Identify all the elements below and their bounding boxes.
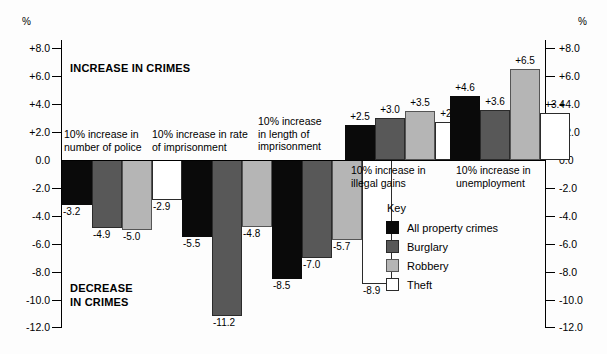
y-axis-tick-label-left: 0.0 [12, 154, 50, 166]
y-axis-tick-left [52, 327, 61, 328]
legend-item-theft: Theft [386, 276, 498, 293]
y-axis-tick-label-right: -4.0 [559, 210, 577, 222]
y-axis-tick-label-left: -8.0 [12, 266, 50, 278]
y-axis-tick-left [52, 272, 61, 273]
bar-all-property-crimes [62, 160, 92, 205]
y-axis-tick-label-right: -12.0 [559, 321, 583, 333]
bar-theft [540, 113, 570, 160]
y-axis-tick-right [546, 216, 555, 217]
bar-all-property-crimes [182, 160, 212, 237]
bar-value-label: +3.6 [480, 96, 510, 107]
bar-value-label: -3.2 [63, 206, 80, 217]
bar-value-label: -2.9 [153, 201, 170, 212]
bar-robbery [510, 69, 540, 160]
bar-value-label: -4.8 [243, 228, 260, 239]
bar-robbery [242, 160, 272, 227]
y-axis-tick-label-left: +6.0 [12, 70, 50, 82]
y-axis-unit-left: % [22, 16, 31, 27]
y-axis-tick-label-left: +4.0 [12, 98, 50, 110]
legend-item-label: Robbery [407, 260, 449, 272]
bar-value-label: +6.5 [510, 55, 540, 66]
bar-robbery [405, 111, 435, 160]
y-axis-tick-label-left: -10.0 [12, 294, 50, 306]
y-axis-tick-left [52, 244, 61, 245]
bar-theft [152, 160, 182, 200]
bar-value-label: -4.9 [93, 229, 110, 240]
chart-canvas: % % +8.0+8.0+6.0+6.0+4.0+4.0+2.0+2.00.00… [0, 0, 607, 354]
bar-burglary [375, 118, 405, 160]
y-axis-tick-left [52, 132, 61, 133]
y-axis-tick-right [546, 188, 555, 189]
y-axis-tick-right [546, 76, 555, 77]
group-caption-2: 10% increase in rate of imprisonment [152, 128, 248, 153]
y-axis-tick-left [52, 76, 61, 77]
y-axis-tick-right [546, 48, 555, 49]
group-caption-5: 10% increase in unemployment [456, 164, 531, 189]
bar-burglary [480, 110, 510, 160]
bar-all-property-crimes [450, 96, 480, 160]
group-caption-4: 10% increase in illegal gains [351, 164, 426, 189]
bar-value-label: -8.9 [363, 285, 380, 296]
y-axis-tick-label-right: -8.0 [559, 266, 577, 278]
bar-burglary [302, 160, 332, 258]
y-axis-tick-label-right: +6.0 [559, 70, 580, 82]
bar-value-label: -5.5 [183, 238, 200, 249]
y-axis-tick-label-left: +8.0 [12, 42, 50, 54]
y-axis-tick-right [546, 272, 555, 273]
bar-value-label: -5.7 [333, 241, 350, 252]
bar-value-label: -5.0 [123, 231, 140, 242]
group-caption-1: 10% increase in number of police [64, 128, 142, 153]
legend-item-robbery: Robbery [386, 257, 498, 274]
y-axis-tick-label-left: -2.0 [12, 182, 50, 194]
bar-value-label: +4.6 [450, 82, 480, 93]
bar-value-label: +3.5 [405, 97, 435, 108]
y-axis-tick-label-right: -2.0 [559, 182, 577, 194]
y-axis-tick-label-right: +8.0 [559, 42, 580, 54]
legend-title: Key [386, 202, 498, 214]
bar-robbery [122, 160, 152, 230]
bar-burglary [92, 160, 122, 228]
dark-gray-swatch-icon [386, 240, 399, 253]
light-gray-swatch-icon [386, 259, 399, 272]
increase-in-crimes-note: INCREASE IN CRIMES [70, 61, 190, 75]
bar-value-label: -7.0 [303, 259, 320, 270]
bar-value-label: +2.5 [345, 111, 375, 122]
y-axis-tick-left [52, 104, 61, 105]
y-axis-tick-left [52, 216, 61, 217]
bar-value-label: -11.2 [213, 317, 235, 328]
y-axis-right-spine [545, 40, 546, 328]
legend-item-label: All property crimes [407, 222, 498, 234]
legend-item-label: Burglary [407, 241, 448, 253]
y-axis-tick-left [52, 48, 61, 49]
y-axis-tick-label-right: -10.0 [559, 294, 583, 306]
legend-item-all-property-crimes: All property crimes [386, 219, 498, 236]
y-axis-tick-right [546, 327, 555, 328]
bar-value-label: -8.5 [273, 280, 290, 291]
y-axis-tick-label-left: -4.0 [12, 210, 50, 222]
y-axis-tick-left [52, 188, 61, 189]
legend-item-burglary: Burglary [386, 238, 498, 255]
legend-item-label: Theft [407, 279, 432, 291]
y-axis-tick-label-right: -6.0 [559, 238, 577, 250]
bar-value-label: +3.0 [375, 104, 405, 115]
zero-baseline [61, 160, 546, 161]
y-axis-tick-label-left: -12.0 [12, 321, 50, 333]
group-caption-3: 10% increase in length of imprisonment [258, 115, 322, 153]
y-axis-unit-right: % [578, 16, 587, 27]
bar-value-label: +3.4 [540, 99, 570, 110]
y-axis-tick-label-left: -6.0 [12, 238, 50, 250]
bar-burglary [212, 160, 242, 316]
legend: Key All property crimes Burglary Robbery… [386, 202, 498, 295]
bar-all-property-crimes [272, 160, 302, 279]
white-swatch-icon [386, 278, 399, 291]
decrease-in-crimes-note: DECREASE IN CRIMES [70, 281, 133, 309]
y-axis-tick-right [546, 300, 555, 301]
y-axis-tick-right [546, 244, 555, 245]
black-swatch-icon [386, 221, 399, 234]
bar-all-property-crimes [345, 125, 375, 160]
y-axis-tick-label-left: +2.0 [12, 126, 50, 138]
y-axis-tick-left [52, 300, 61, 301]
